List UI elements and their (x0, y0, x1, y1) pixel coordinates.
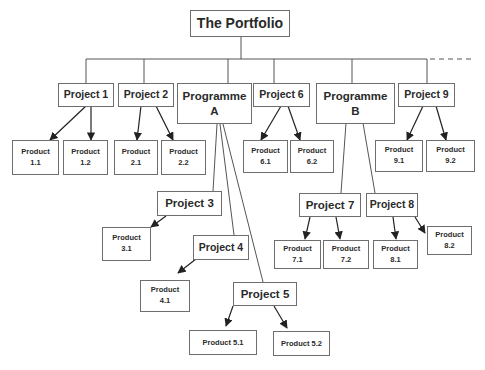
node-project-7: Project 7 (299, 193, 361, 217)
node-project-8: Project 8 (366, 193, 418, 217)
node-programme-b: Programme B (316, 83, 395, 124)
node-programme-a: Programme A (177, 83, 252, 124)
node-project-1: Project 1 (58, 83, 114, 107)
node-product-2-2: Product 2.2 (161, 140, 206, 175)
node-product-8-1: Product 8.1 (373, 240, 418, 269)
node-project-9: Project 9 (398, 83, 455, 107)
node-project-6: Project 6 (253, 83, 310, 107)
node-product-1-1: Product 1.1 (12, 140, 59, 175)
node-product-2-1: Product 2.1 (114, 140, 158, 175)
node-product-6-2: Product 6.2 (290, 140, 334, 173)
node-product-7-1: Product 7.1 (274, 240, 321, 269)
node-project-2: Project 2 (118, 83, 174, 107)
node-product-4-1: Product 4.1 (140, 280, 190, 312)
node-the-portfolio: The Portfolio (190, 10, 290, 37)
node-product-7-2: Product 7.2 (323, 240, 369, 269)
node-product-6-1: Product 6.1 (243, 140, 288, 173)
node-product-9-2: Product 9.2 (426, 140, 475, 172)
node-product-9-1: Product 9.1 (375, 140, 423, 172)
connector-lines (0, 0, 485, 370)
node-product-3-1: Product 3.1 (102, 227, 151, 261)
node-product-5-1: Product 5.1 (189, 330, 257, 355)
node-project-5: Project 5 (233, 282, 297, 306)
node-project-3: Project 3 (157, 191, 222, 216)
node-product-8-2: Product 8.2 (427, 226, 472, 255)
node-product-5-2: Product 5.2 (273, 331, 330, 356)
node-product-1-2: Product 1.2 (63, 140, 108, 175)
portfolio-diagram: The Portfolio Project 1 Project 2 Progra… (0, 0, 485, 370)
node-project-4: Project 4 (193, 235, 249, 260)
